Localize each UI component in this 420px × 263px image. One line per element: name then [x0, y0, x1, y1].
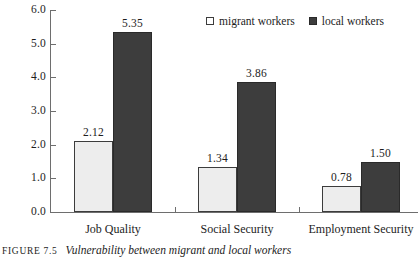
filled-square-icon	[309, 17, 317, 25]
y-axis-tick	[51, 145, 56, 146]
bar-local-workers	[361, 162, 400, 213]
x-axis-category-label: Social Security	[177, 222, 297, 236]
y-axis-tick	[51, 77, 56, 78]
y-axis-tick-label: 2.0	[14, 139, 46, 151]
bar-migrant-workers	[74, 141, 113, 212]
legend-item-migrant-workers: migrant workers	[206, 15, 295, 27]
y-axis-tick	[51, 10, 56, 11]
y-axis-tick-label-text: 5.0	[18, 38, 46, 50]
y-axis-tick-label: 4.0	[14, 71, 46, 83]
x-axis-category-label: Employment Security	[301, 222, 420, 236]
y-axis-tick	[51, 212, 56, 213]
y-axis-tick-label-text: 1.0	[18, 172, 46, 184]
figure-caption: Figure 7.5 Vulnerability between migrant…	[2, 244, 291, 256]
open-square-icon	[206, 17, 214, 25]
bar-local-workers	[237, 82, 276, 212]
y-axis-tick-label-text: 2.0	[18, 139, 46, 151]
figure-caption-text: Vulnerability between migrant and local …	[66, 244, 292, 256]
bar-value-label: 1.50	[353, 147, 408, 159]
y-axis-tick	[51, 44, 56, 45]
legend-label-local-workers: local workers	[322, 15, 384, 27]
y-axis-tick-label: 5.0	[14, 38, 46, 50]
x-axis-category-label: Job Quality	[53, 222, 173, 236]
figure-container: 0.01.02.03.04.05.06.0 2.125.351.343.860.…	[0, 0, 420, 263]
bar-local-workers	[113, 32, 152, 212]
y-axis-tick-label: 3.0	[14, 105, 46, 117]
y-axis-tick-label-text: 4.0	[18, 71, 46, 83]
bar-migrant-workers	[322, 186, 361, 212]
legend-label-migrant-workers: migrant workers	[219, 15, 295, 27]
figure-caption-tag: Figure 7.5	[2, 246, 58, 256]
y-axis-tick-label: 6.0	[14, 4, 46, 16]
chart-plot-area: 0.01.02.03.04.05.06.0 2.125.351.343.860.…	[0, 0, 420, 218]
y-axis-tick-label: 1.0	[14, 172, 46, 184]
x-axis-tick	[299, 207, 300, 212]
x-axis-tick	[175, 207, 176, 212]
chart-legend: migrant workers local workers	[206, 15, 384, 27]
legend-item-local-workers: local workers	[309, 15, 384, 27]
y-axis-tick	[51, 178, 56, 179]
bar-value-label: 5.35	[105, 17, 160, 29]
y-axis-tick	[51, 111, 56, 112]
bar-value-label: 3.86	[229, 67, 284, 79]
y-axis-tick-label-text: 6.0	[18, 4, 46, 16]
bar-migrant-workers	[198, 167, 237, 212]
y-axis-tick-label: 0.0	[14, 206, 46, 218]
x-axis-line	[50, 212, 418, 213]
y-axis-tick-label-text: 0.0	[18, 206, 46, 218]
y-axis-tick-label-text: 3.0	[18, 105, 46, 117]
